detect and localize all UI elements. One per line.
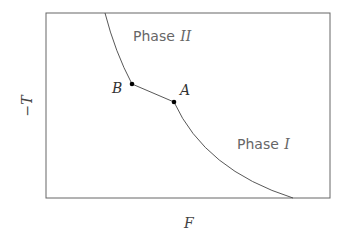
point-a-label: A (180, 82, 190, 98)
phase-ii-numeral: II (180, 28, 191, 44)
phase-ii-word: Phase (133, 28, 175, 44)
region-label-phase-ii: Phase II (133, 28, 191, 45)
point-b-label: B (112, 80, 122, 96)
phase-i-word: Phase (237, 136, 279, 152)
y-axis-label: −T (19, 95, 35, 116)
point-a-marker (172, 100, 177, 105)
point-b-marker (130, 82, 135, 87)
phase-boundary-upper (105, 13, 132, 84)
x-axis-label: F (184, 215, 194, 231)
phase-i-numeral: I (284, 136, 290, 152)
region-label-phase-i: Phase I (237, 136, 290, 153)
segment-b-a (132, 84, 174, 102)
